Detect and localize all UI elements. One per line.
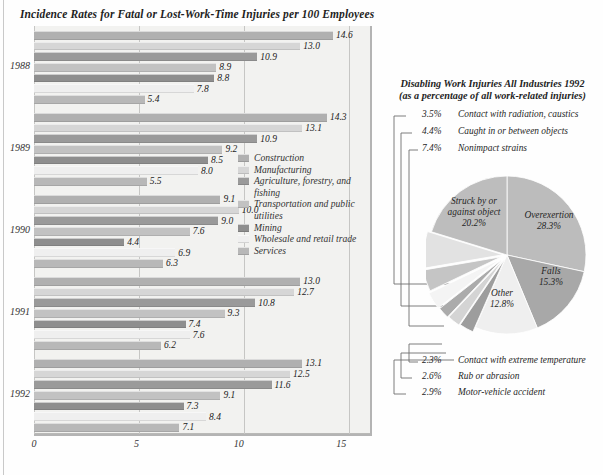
bar-value-label: 6.3 xyxy=(163,258,178,268)
bar-1991-transportation-and-public-utilities xyxy=(34,309,225,318)
pie-label-overexertion-text: Overexertion xyxy=(524,210,573,220)
pie-label-falls-text: Falls xyxy=(541,266,560,276)
bar-value-label: 7.6 xyxy=(190,226,205,236)
top-callout-1: 4.4%Caught in or between objects xyxy=(422,126,568,136)
bar-1989-construction xyxy=(34,113,327,122)
legend-item-label: Manufacturing xyxy=(254,164,366,176)
bar-value-label: 7.3 xyxy=(184,401,199,411)
bottom-callout-label: Contact with extreme temperature xyxy=(458,355,586,365)
bar-1992-wholesale-and-retail-trade xyxy=(34,412,206,421)
bar-row: 14.6 xyxy=(34,30,370,41)
top-callout-0: 3.5%Contact with radiation, caustics xyxy=(422,109,578,119)
legend-item-label: Agriculture, forestry, and fishing xyxy=(254,175,366,198)
legend-item-label: Services xyxy=(254,245,366,257)
bottom-callout-pct: 2.9% xyxy=(422,387,452,397)
bar-row: 7.8 xyxy=(34,83,370,94)
pie-label-struck-by-line2: against object xyxy=(448,207,501,217)
bar-1992-services xyxy=(34,423,179,432)
bar-value-label: 9.1 xyxy=(220,390,235,400)
figure-page: Incidence Rates for Fatal or Lost-Work-T… xyxy=(0,0,603,475)
bar-value-label: 5.5 xyxy=(147,176,162,186)
legend-item-agriculture[interactable]: Agriculture, forestry, and fishing xyxy=(238,175,366,198)
x-axis: 051015 xyxy=(34,438,372,454)
bar-row: 13.0 xyxy=(34,41,370,52)
bottom-callout-0: 2.3%Contact with extreme temperature xyxy=(422,355,586,365)
bar-1990-mining xyxy=(34,238,124,247)
top-callout-pct: 4.4% xyxy=(422,126,452,136)
bar-1990-wholesale-and-retail-trade xyxy=(34,248,175,257)
bar-value-label: 13.1 xyxy=(302,358,322,368)
bar-value-label: 12.5 xyxy=(290,369,310,379)
bar-row: 14.3 xyxy=(34,112,370,123)
legend-item-transportation-and-public-utilities[interactable]: Transportation and public utilities xyxy=(238,198,366,221)
legend-item-mining[interactable]: Mining xyxy=(238,222,366,234)
bar-1989-services xyxy=(34,177,147,186)
top-callout-label: Nonimpact strains xyxy=(458,143,527,153)
legend-swatch-icon xyxy=(238,224,249,232)
pie-label-other-pct: 12.8% xyxy=(490,299,514,309)
bar-row: 7.4 xyxy=(34,319,370,330)
bar-value-label: 4.4 xyxy=(124,237,139,247)
top-callout-label: Contact with radiation, caustics xyxy=(458,109,578,119)
pie-label-overexertion-pct: 28.3% xyxy=(537,221,561,231)
bar-1988-agriculture xyxy=(34,52,257,61)
bar-1990-transportation-and-public-utilities xyxy=(34,227,190,236)
bar-value-label: 8.8 xyxy=(214,73,229,83)
bar-1992-construction xyxy=(34,359,302,368)
bar-value-label: 8.4 xyxy=(206,412,221,422)
bar-row: 7.6 xyxy=(34,329,370,340)
bar-1992-agriculture xyxy=(34,380,272,389)
bar-group-1988: 198814.613.010.98.98.87.85.4 xyxy=(34,30,370,105)
bar-value-label: 7.6 xyxy=(190,330,205,340)
bar-value-label: 9.1 xyxy=(220,194,235,204)
bar-row: 10.8 xyxy=(34,297,370,308)
legend-item-manufacturing[interactable]: Manufacturing xyxy=(238,164,366,176)
legend-item-wholesale-and-retail-trade[interactable]: Wholesale and retail trade xyxy=(238,233,366,245)
year-label-1988: 1988 xyxy=(10,60,30,71)
left-edge-rule xyxy=(3,0,4,475)
bar-1992-manufacturing xyxy=(34,370,290,379)
bar-1991-mining xyxy=(34,320,186,329)
bar-value-label: 5.4 xyxy=(145,94,160,104)
bar-value-label: 8.5 xyxy=(208,155,223,165)
bar-1990-construction xyxy=(34,195,220,204)
year-label-1992: 1992 xyxy=(10,388,30,399)
legend-swatch-icon xyxy=(238,154,249,162)
bar-1988-services xyxy=(34,95,145,104)
bar-row: 9.1 xyxy=(34,390,370,401)
legend-item-label: Construction xyxy=(254,152,366,164)
bar-1988-manufacturing xyxy=(34,42,300,51)
bar-value-label: 9.3 xyxy=(225,308,240,318)
x-tick-5: 5 xyxy=(134,438,139,449)
pie-label-falls: Falls 15.3% xyxy=(524,266,578,288)
bar-value-label: 11.6 xyxy=(272,380,291,390)
bar-value-label: 13.0 xyxy=(300,276,320,286)
pie-label-other-text: Other xyxy=(491,288,513,298)
x-tick-0: 0 xyxy=(32,438,37,449)
bar-1988-transportation-and-public-utilities xyxy=(34,63,216,72)
bar-value-label: 6.2 xyxy=(161,340,176,350)
bar-group-1992: 199213.112.511.69.17.38.47.1 xyxy=(34,358,370,433)
bar-value-label: 14.6 xyxy=(333,30,353,40)
bar-1990-services xyxy=(34,259,163,268)
legend-item-construction[interactable]: Construction xyxy=(238,152,366,164)
bar-row: 8.4 xyxy=(34,411,370,422)
pie-graphic: Struck by or against object 20.2% Overex… xyxy=(426,174,588,336)
legend-item-services[interactable]: Services xyxy=(238,245,366,257)
year-label-1991: 1991 xyxy=(10,306,30,317)
pie-label-falls-pct: 15.3% xyxy=(539,277,563,287)
bottom-callout-label: Motor-vehicle accident xyxy=(458,387,545,397)
bar-row: 8.9 xyxy=(34,62,370,73)
bottom-callout-pct: 2.6% xyxy=(422,371,452,381)
pie-label-overexertion: Overexertion 28.3% xyxy=(512,210,586,232)
bar-1992-mining xyxy=(34,402,184,411)
bar-value-label: 9.0 xyxy=(218,216,233,226)
bar-row: 7.1 xyxy=(34,422,370,433)
bar-1991-wholesale-and-retail-trade xyxy=(34,330,190,339)
bottom-callout-1: 2.6%Rub or abrasion xyxy=(422,371,519,381)
bar-1988-wholesale-and-retail-trade xyxy=(34,84,194,93)
bottom-callout-label: Rub or abrasion xyxy=(458,371,519,381)
bar-chart-legend: ConstructionManufacturingAgriculture, fo… xyxy=(238,152,366,256)
x-tick-15: 15 xyxy=(336,438,346,449)
bar-row: 6.2 xyxy=(34,340,370,351)
